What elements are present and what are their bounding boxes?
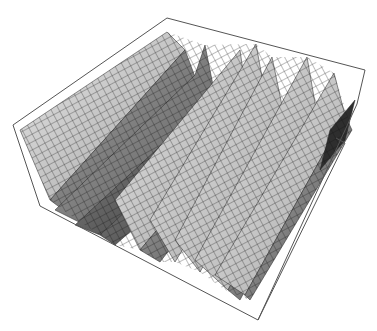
- surface: [20, 32, 355, 300]
- surface-plot-3d: [0, 0, 377, 331]
